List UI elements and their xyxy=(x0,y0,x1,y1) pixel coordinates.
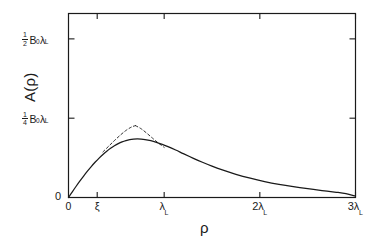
y-axis-title: A(ρ) xyxy=(22,73,37,102)
x-axis-title: ρ xyxy=(200,220,209,235)
y-tick-label-zero: 0 xyxy=(55,191,61,202)
asymptote-curve xyxy=(135,126,164,148)
plot-canvas xyxy=(0,0,377,244)
x-tick-label-lambda-l: λL xyxy=(160,201,169,214)
y-tick-label-half-b0-lambda: 12B0λL xyxy=(22,32,49,48)
x-tick-label-three-lambda-l: 3λL xyxy=(348,201,363,214)
x-tick-label-zero: 0 xyxy=(66,201,72,212)
fraction: 14 xyxy=(22,111,28,127)
asymptote-curve xyxy=(103,126,136,152)
y-tick-label-quarter-b0-lambda: 14B0λL xyxy=(22,111,49,127)
fraction: 12 xyxy=(22,31,28,47)
figure-container: A(ρ) ρ 12B0λL14B0λL0 0ξλL2λL3λL xyxy=(0,0,377,244)
x-tick-label-xi: ξ xyxy=(95,201,100,212)
main-curve xyxy=(69,139,356,198)
x-tick-label-two-lambda-l: 2λL xyxy=(252,201,267,214)
axes-frame xyxy=(69,14,356,198)
